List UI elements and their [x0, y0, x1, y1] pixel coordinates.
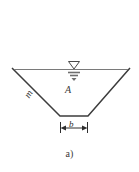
flow-area-label: A — [65, 85, 71, 95]
figure-caption: a) — [0, 148, 139, 159]
dimension-arrow-right-icon — [82, 126, 88, 131]
water-surface-triangle-icon — [68, 62, 80, 82]
figure-container: m A b a) — [0, 0, 139, 172]
bottom-width-dimension — [61, 122, 88, 133]
dimension-arrow-left-icon — [61, 126, 67, 131]
bottom-width-label: b — [69, 120, 74, 129]
water-hatch-triangle — [72, 78, 77, 81]
water-level-open-triangle — [69, 62, 80, 70]
